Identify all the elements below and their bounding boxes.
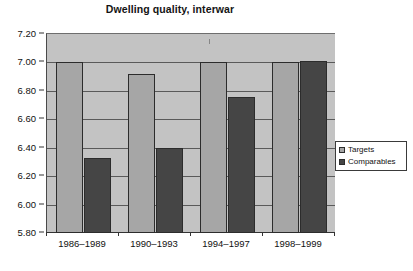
legend-item-label: Targets (348, 145, 374, 155)
y-tick-mark (39, 89, 44, 90)
y-tick-label: 6.00 (18, 198, 37, 209)
y-tick-label: 7.20 (18, 28, 37, 39)
bar-targets-1 (128, 74, 155, 233)
y-tick-label: 6.40 (18, 141, 37, 152)
y-axis: 7.207.006.806.606.406.206.005.80 (0, 33, 44, 232)
y-tick-mark (39, 146, 44, 147)
plot-area (46, 33, 335, 233)
bar-chart: Dwelling quality, interwar 7.207.006.806… (0, 0, 413, 271)
legend-item-targets: Targets (339, 145, 403, 155)
bar-comparables-0 (84, 158, 111, 233)
x-tick-label: 1998–1999 (274, 238, 322, 249)
y-tick-label: 5.80 (18, 227, 37, 238)
x-tick-label: 1986–1989 (58, 238, 106, 249)
bars-layer (47, 34, 335, 233)
bar-comparables-2 (228, 97, 255, 233)
y-tick-label: 7.00 (18, 56, 37, 67)
y-tick-label: 6.60 (18, 113, 37, 124)
y-tick-label: 6.80 (18, 84, 37, 95)
bar-targets-3 (272, 62, 299, 233)
y-tick-mark (39, 232, 44, 233)
y-tick-mark (39, 203, 44, 204)
bar-targets-0 (56, 62, 83, 233)
legend-swatch-icon (339, 147, 345, 153)
legend-item-label: Comparables (348, 157, 396, 167)
y-tick-mark (39, 175, 44, 176)
x-axis: 1986–19891990–19931994–19971998–1999 (46, 238, 334, 254)
chart-title: Dwelling quality, interwar (0, 3, 340, 15)
bar-comparables-3 (300, 61, 327, 233)
y-tick-label: 6.20 (18, 170, 37, 181)
x-tick-label: 1994–1997 (202, 238, 250, 249)
bar-comparables-1 (156, 148, 183, 233)
legend: TargetsComparables (335, 141, 407, 171)
y-tick-mark (39, 118, 44, 119)
y-tick-mark (39, 33, 44, 34)
legend-swatch-icon (339, 159, 345, 165)
x-tick-label: 1990–1993 (130, 238, 178, 249)
y-tick-mark (39, 61, 44, 62)
legend-item-comparables: Comparables (339, 157, 403, 167)
bar-targets-2 (200, 62, 227, 233)
